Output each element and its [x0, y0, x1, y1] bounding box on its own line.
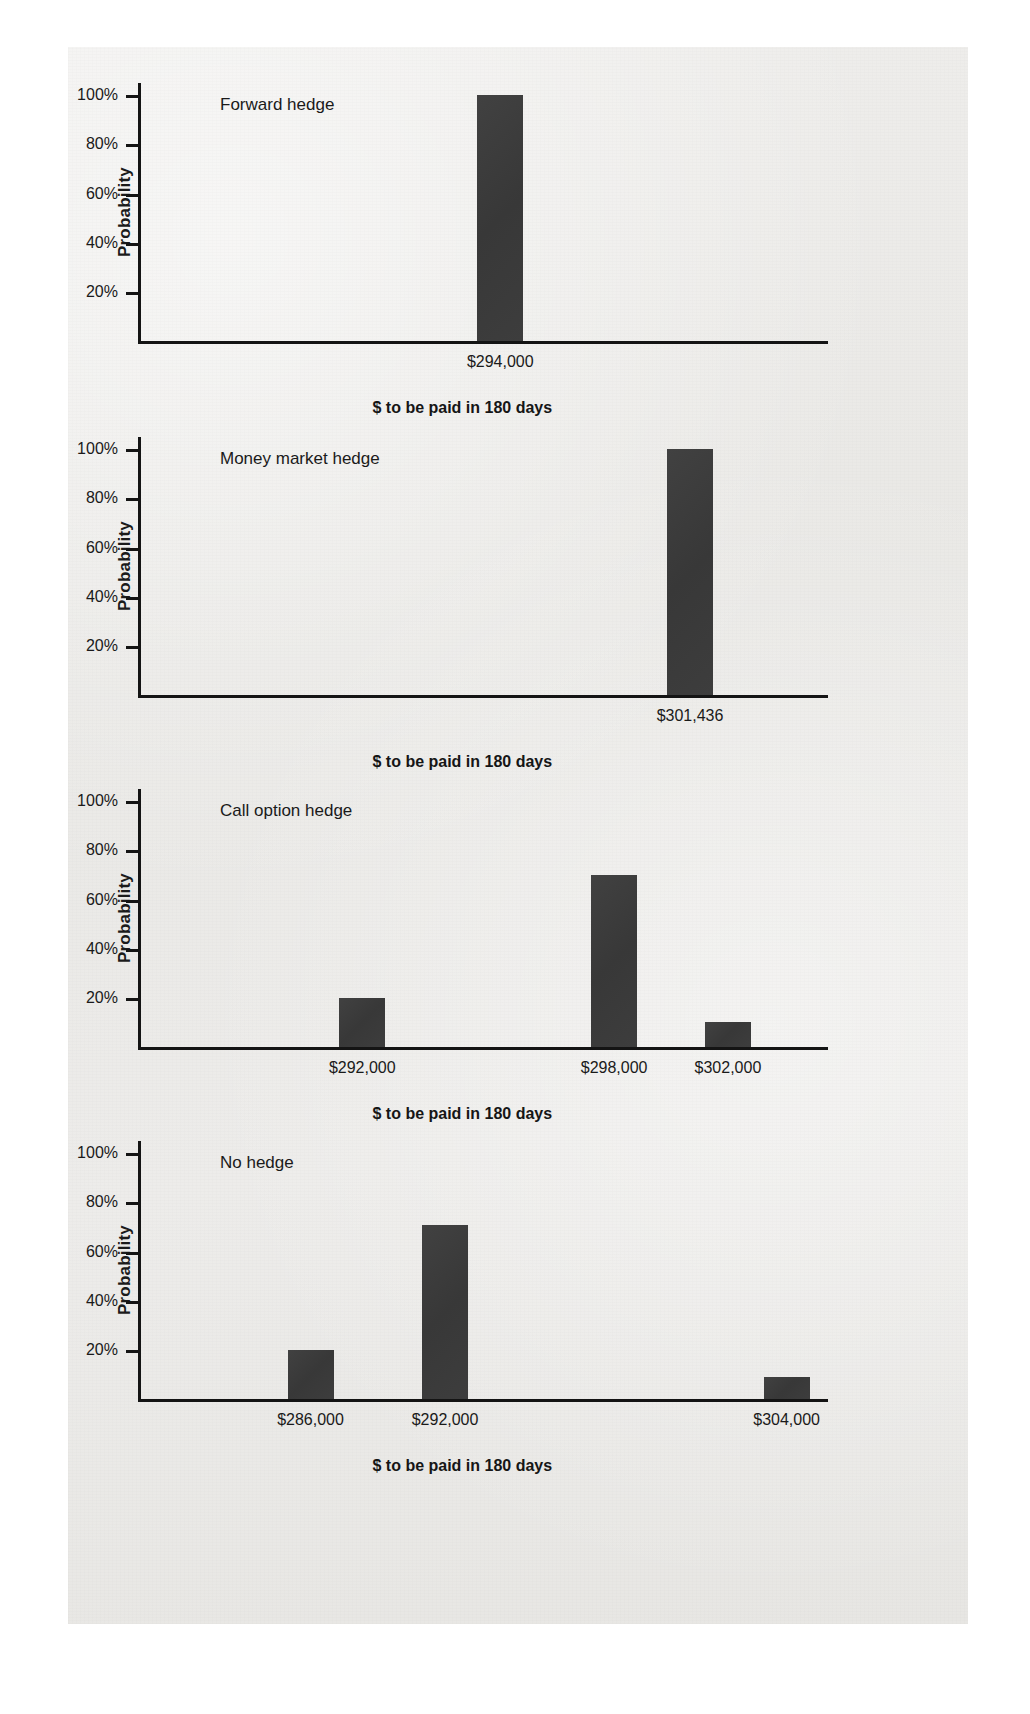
- x-axis-tick-label: $302,000: [695, 1059, 762, 1077]
- x-axis-line: [138, 1399, 828, 1402]
- bar: [477, 95, 523, 341]
- x-axis-tick-label: $286,000: [277, 1411, 344, 1429]
- y-axis-tick: [126, 449, 139, 452]
- y-axis-line: [138, 437, 141, 695]
- x-axis-tick-label: $292,000: [412, 1411, 479, 1429]
- y-axis-tick-label: 40%: [62, 588, 118, 606]
- y-axis-tick-label: 100%: [62, 86, 118, 104]
- x-axis-tick-label: $292,000: [329, 1059, 396, 1077]
- y-axis-tick-label: 20%: [62, 283, 118, 301]
- x-axis-line: [138, 341, 828, 344]
- chart-title: Call option hedge: [220, 801, 352, 821]
- y-axis-tick-label: 100%: [62, 440, 118, 458]
- x-axis-tick-label: $294,000: [467, 353, 534, 371]
- y-axis-tick: [126, 850, 139, 853]
- chart-panel-list: Probability20%40%60%80%100%Forward hedge…: [68, 47, 968, 1624]
- y-axis-tick: [126, 646, 139, 649]
- y-axis-tick-label: 40%: [62, 940, 118, 958]
- x-axis-tick-label: $298,000: [581, 1059, 648, 1077]
- y-axis-tick-label: 80%: [62, 135, 118, 153]
- y-axis-tick-label: 60%: [62, 1243, 118, 1261]
- y-axis-tick: [126, 243, 139, 246]
- x-axis-title: $ to be paid in 180 days: [372, 1105, 552, 1123]
- chart-title: Forward hedge: [220, 95, 334, 115]
- chart-title: Money market hedge: [220, 449, 380, 469]
- y-axis-tick: [126, 144, 139, 147]
- x-axis-tick-label: $301,436: [657, 707, 724, 725]
- y-axis-tick-label: 20%: [62, 637, 118, 655]
- y-axis-tick-label: 60%: [62, 891, 118, 909]
- y-axis-tick: [126, 498, 139, 501]
- y-axis-line: [138, 83, 141, 341]
- y-axis-tick: [126, 597, 139, 600]
- x-axis-title: $ to be paid in 180 days: [372, 399, 552, 417]
- y-axis-tick: [126, 194, 139, 197]
- y-axis-tick: [126, 95, 139, 98]
- bar: [422, 1225, 468, 1399]
- x-axis-tick-label: $304,000: [753, 1411, 820, 1429]
- y-axis-line: [138, 789, 141, 1047]
- y-axis-line: [138, 1141, 141, 1399]
- chart-panel: Probability20%40%60%80%100%Money market …: [68, 437, 968, 805]
- y-axis-tick-label: 80%: [62, 841, 118, 859]
- x-axis-line: [138, 1047, 828, 1050]
- bar: [667, 449, 713, 695]
- y-axis-tick-label: 80%: [62, 1193, 118, 1211]
- y-axis-tick-label: 20%: [62, 1341, 118, 1359]
- x-axis-title: $ to be paid in 180 days: [372, 1457, 552, 1475]
- y-axis-tick-label: 40%: [62, 234, 118, 252]
- y-axis-tick: [126, 1252, 139, 1255]
- y-axis-tick-label: 40%: [62, 1292, 118, 1310]
- y-axis-tick: [126, 1301, 139, 1304]
- y-axis-tick-label: 80%: [62, 489, 118, 507]
- y-axis-tick-label: 60%: [62, 185, 118, 203]
- bar: [591, 875, 637, 1047]
- y-axis-tick-label: 60%: [62, 539, 118, 557]
- chart-panel: Probability20%40%60%80%100%Call option h…: [68, 789, 968, 1157]
- y-axis-tick: [126, 900, 139, 903]
- x-axis-title: $ to be paid in 180 days: [372, 753, 552, 771]
- bar: [288, 1350, 334, 1399]
- chart-panel: Probability20%40%60%80%100%Forward hedge…: [68, 83, 968, 451]
- chart-panel: Probability20%40%60%80%100%No hedge$286,…: [68, 1141, 968, 1509]
- x-axis-line: [138, 695, 828, 698]
- figure-plate: Probability20%40%60%80%100%Forward hedge…: [68, 47, 968, 1624]
- y-axis-tick: [126, 292, 139, 295]
- bar: [339, 998, 385, 1047]
- y-axis-tick-label: 100%: [62, 1144, 118, 1162]
- y-axis-tick: [126, 1350, 139, 1353]
- y-axis-tick: [126, 1202, 139, 1205]
- y-axis-tick-label: 20%: [62, 989, 118, 1007]
- chart-title: No hedge: [220, 1153, 294, 1173]
- bar: [764, 1377, 810, 1399]
- y-axis-tick-label: 100%: [62, 792, 118, 810]
- y-axis-tick: [126, 998, 139, 1001]
- y-axis-tick: [126, 1153, 139, 1156]
- y-axis-tick: [126, 801, 139, 804]
- bar: [705, 1022, 751, 1047]
- y-axis-tick: [126, 949, 139, 952]
- y-axis-tick: [126, 548, 139, 551]
